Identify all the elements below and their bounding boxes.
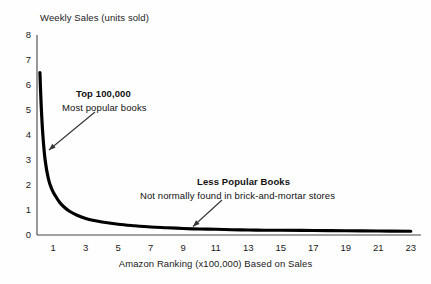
annotation-less-popular-title: Less Popular Books (197, 176, 290, 187)
axis-lines (37, 35, 421, 235)
plot-area (0, 0, 431, 284)
annotation-top-100k-subtitle: Most popular books (62, 102, 147, 113)
annotation-arrows (49, 112, 222, 227)
chart-figure: Weekly Sales (units sold) 012345678 1357… (0, 0, 431, 284)
x-axis-title: Amazon Ranking (x100,000) Based on Sales (0, 258, 431, 269)
arrow-less-popular (193, 200, 222, 227)
annotation-less-popular-subtitle: Not normally found in brick-and-mortar s… (140, 190, 335, 201)
annotation-top-100k-title: Top 100,000 (76, 88, 131, 99)
arrow-top-100k (49, 112, 95, 150)
